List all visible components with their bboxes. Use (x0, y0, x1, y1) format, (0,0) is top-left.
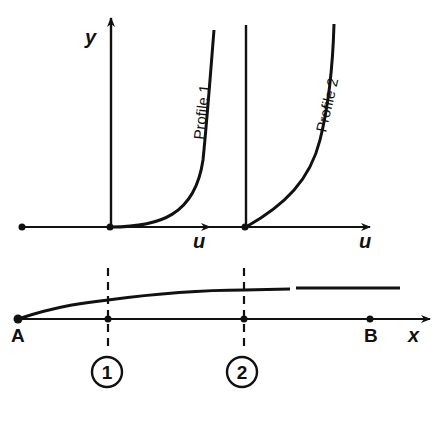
station-2-dot (241, 316, 248, 323)
station-1-marker: 1 (92, 357, 122, 387)
y-axis-label: y (84, 26, 97, 48)
origin-dot (19, 224, 26, 231)
point-a-dot (14, 315, 23, 324)
u-axis-label-1: u (193, 230, 205, 252)
boundary-layer-edge-curve (18, 289, 290, 319)
point-b-label: B (364, 325, 378, 346)
station-1-dot (105, 316, 112, 323)
point-b-dot (367, 316, 374, 323)
plate-x-axis (14, 315, 431, 324)
boundary-layer-diagram: y u u Profile 1 Profile 2 A B x 1 2 (0, 0, 444, 432)
station-1-number: 1 (102, 362, 113, 383)
u-axis-label-2: u (359, 230, 371, 252)
point-a-label: A (11, 325, 25, 346)
station-2-marker: 2 (227, 357, 257, 387)
profile-1-label: Profile 1 (190, 84, 213, 141)
station-2-number: 2 (237, 362, 248, 383)
x-axis-label: x (407, 324, 420, 346)
profile-2-label: Profile 2 (312, 76, 341, 133)
